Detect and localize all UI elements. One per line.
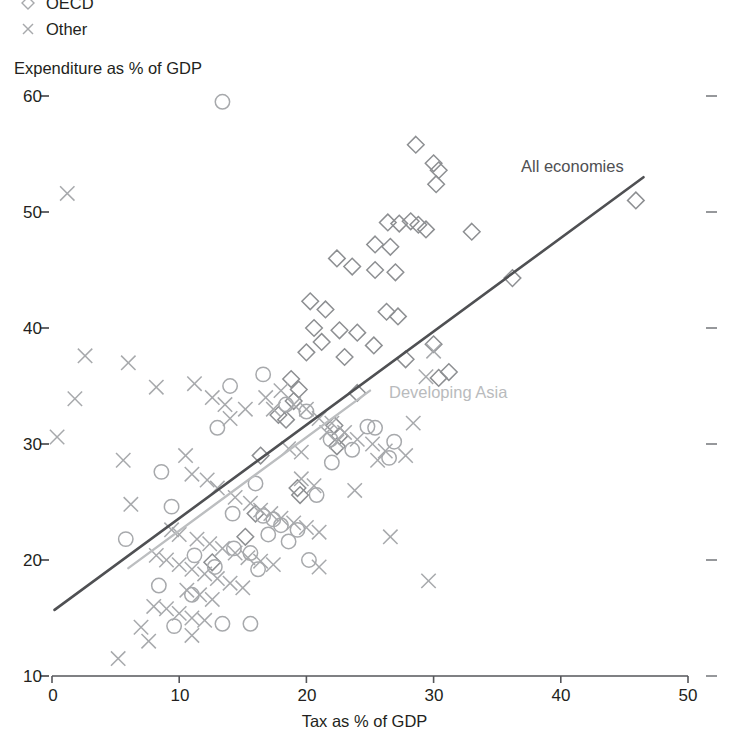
- data-point-circle: [225, 506, 239, 520]
- data-point-circle: [223, 379, 237, 393]
- series-oecd: [204, 136, 644, 570]
- data-point-diamond: [329, 250, 346, 267]
- data-point-circle: [309, 488, 323, 502]
- data-point-diamond: [463, 223, 480, 240]
- plot-area: [0, 0, 729, 742]
- data-point-circle: [261, 527, 275, 541]
- data-point-diamond: [366, 337, 383, 354]
- data-point-diamond: [367, 236, 384, 253]
- data-point-diamond: [285, 393, 302, 410]
- data-point-diamond: [428, 176, 445, 193]
- y-tick-label-30: 30: [8, 435, 42, 455]
- data-point-diamond: [425, 336, 442, 353]
- data-point-circle: [299, 404, 313, 418]
- data-point-diamond: [390, 308, 407, 325]
- data-point-circle: [325, 455, 339, 469]
- data-point-circle: [152, 578, 166, 592]
- data-point-circle: [215, 95, 229, 109]
- data-point-diamond: [204, 554, 221, 571]
- y-tick-label-20: 20: [8, 551, 42, 571]
- y-tick-label-10: 10: [8, 667, 42, 687]
- data-point-circle: [164, 499, 178, 513]
- data-point-diamond: [290, 381, 307, 398]
- annotation-all-economies: All economies: [521, 157, 624, 176]
- x-tick-label-0: 0: [33, 686, 73, 706]
- scatter-chart: OECD Other Expenditure as % of GDP 60 50…: [0, 0, 729, 742]
- y-tick-label-40: 40: [8, 319, 42, 339]
- series-other-circle: [119, 95, 402, 634]
- data-point-diamond: [628, 192, 645, 209]
- data-point-circle: [119, 532, 133, 546]
- data-point-circle: [256, 367, 270, 381]
- data-point-circle: [167, 619, 181, 633]
- data-point-circle: [187, 548, 201, 562]
- x-tick-label-30: 30: [414, 686, 454, 706]
- data-point-circle: [154, 465, 168, 479]
- x-axis-title: Tax as % of GDP: [0, 712, 729, 731]
- data-point-circle: [243, 617, 257, 631]
- data-point-diamond: [407, 136, 424, 153]
- data-point-circle: [302, 553, 316, 567]
- data-point-diamond: [298, 344, 315, 361]
- data-point-diamond: [317, 301, 334, 318]
- data-point-diamond: [292, 487, 309, 504]
- data-point-diamond: [336, 349, 353, 366]
- y-tick-label-50: 50: [8, 203, 42, 223]
- data-point-diamond: [306, 320, 323, 337]
- data-point-diamond: [313, 334, 330, 351]
- y-tick-label-60: 60: [8, 87, 42, 107]
- data-point-diamond: [349, 324, 366, 341]
- data-point-circle: [243, 546, 257, 560]
- data-point-diamond: [380, 214, 397, 231]
- data-point-diamond: [237, 529, 254, 546]
- x-tick-label-40: 40: [541, 686, 581, 706]
- trendline-all-economies: [55, 177, 644, 610]
- x-tick-label-10: 10: [160, 686, 200, 706]
- data-point-diamond: [387, 264, 404, 281]
- data-point-diamond: [344, 258, 361, 275]
- data-point-circle: [215, 617, 229, 631]
- data-point-diamond: [382, 239, 399, 256]
- data-point-diamond: [378, 303, 395, 320]
- data-point-diamond: [302, 293, 319, 310]
- x-tick-label-50: 50: [668, 686, 708, 706]
- data-point-diamond: [367, 262, 384, 279]
- x-tick-label-20: 20: [287, 686, 327, 706]
- data-point-circle: [210, 421, 224, 435]
- data-point-diamond: [283, 371, 300, 388]
- data-point-diamond: [331, 322, 348, 339]
- annotation-developing-asia: Developing Asia: [389, 383, 507, 402]
- data-point-diamond: [441, 364, 458, 381]
